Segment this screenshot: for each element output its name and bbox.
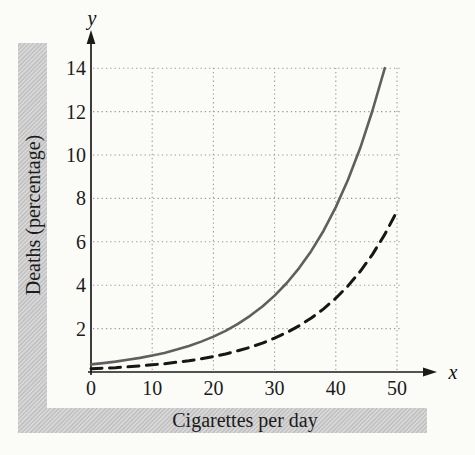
- y-tick-label-8: 8: [38, 187, 86, 209]
- axes: [87, 30, 437, 376]
- y-tick-label-2: 2: [38, 318, 86, 340]
- x-tick-label-10: 10: [135, 377, 169, 399]
- x-tick-label-20: 20: [196, 377, 230, 399]
- x-tick-label-40: 40: [319, 377, 353, 399]
- y-tick-label-14: 14: [38, 57, 86, 79]
- y-tick-label-12: 12: [38, 101, 86, 123]
- y-tick-label-6: 6: [38, 231, 86, 253]
- y-tick-label-10: 10: [38, 144, 86, 166]
- dashed-curve: [91, 211, 397, 369]
- x-tick-label-50: 50: [380, 377, 414, 399]
- x-tick-label-30: 30: [258, 377, 292, 399]
- data-curves: [91, 68, 397, 369]
- y-tick-label-4: 4: [38, 274, 86, 296]
- x-tick-label-0: 0: [74, 377, 108, 399]
- gridlines: [93, 68, 402, 370]
- x-axis-arrowhead: [423, 368, 437, 377]
- figure-page: Deaths (percentage) Cigarettes per day y…: [0, 0, 475, 455]
- solid-curve: [91, 68, 385, 364]
- y-axis-arrowhead: [87, 30, 96, 44]
